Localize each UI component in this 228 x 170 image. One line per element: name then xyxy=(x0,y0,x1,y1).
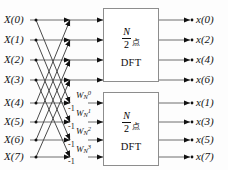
upper-dft-size: N 2 点 xyxy=(104,27,158,50)
straight-branches xyxy=(36,20,70,157)
twiddle-factor-3: WN3 xyxy=(76,144,91,155)
output-label-6: x(5) xyxy=(196,134,228,145)
input-label-3: X(3) xyxy=(4,74,34,85)
output-nodes xyxy=(191,19,194,159)
cross-branches-down xyxy=(36,20,70,157)
twiddle-factor-1: WN1 xyxy=(76,108,91,119)
input-label-4: X(4) xyxy=(4,97,34,108)
lower-unit-label: 点 xyxy=(132,120,140,131)
input-label-5: X(5) xyxy=(4,116,34,127)
twiddle-base-2: W xyxy=(76,126,84,136)
output-label-3: x(6) xyxy=(196,74,228,85)
input-label-6: X(6) xyxy=(4,134,34,145)
minus-one-label-1: -1 xyxy=(68,123,75,131)
input-label-2: X(2) xyxy=(4,54,34,65)
input-label-0: X(0) xyxy=(4,14,34,25)
upper-unit-label: 点 xyxy=(132,36,140,47)
cross-branches-up xyxy=(36,20,70,157)
lower-dft-block: N 2 点 DFT xyxy=(103,92,159,166)
output-wires xyxy=(159,20,190,157)
twiddle-base-0: W xyxy=(76,90,84,100)
fft-butterfly-diagram: X(0) X(1) X(2) X(3) X(4) X(5) X(6) X(7) … xyxy=(0,0,228,170)
minus-one-label-0: -1 xyxy=(68,105,75,113)
upper-block-feeds xyxy=(70,20,103,80)
twiddle-sup-2: 2 xyxy=(88,125,91,132)
minus-one-label-2: -1 xyxy=(68,141,75,149)
lower-dft-label: DFT xyxy=(104,141,158,152)
twiddle-sup-0: 0 xyxy=(88,89,91,96)
twiddle-sup-3: 3 xyxy=(88,143,91,150)
input-label-1: X(1) xyxy=(4,34,34,45)
lower-fraction: N 2 xyxy=(122,111,131,134)
lower-fraction-denominator: 2 xyxy=(122,124,131,135)
output-label-4: x(1) xyxy=(196,97,228,108)
upper-dft-block: N 2 点 DFT xyxy=(103,8,159,82)
twiddle-base-1: W xyxy=(76,108,84,118)
upper-fraction-numerator: N xyxy=(122,27,131,38)
twiddle-factor-2: WN2 xyxy=(76,126,91,137)
lower-dft-size: N 2 点 xyxy=(104,111,158,134)
output-label-7: x(7) xyxy=(196,151,228,162)
lower-fraction-numerator: N xyxy=(122,111,131,122)
output-label-2: x(4) xyxy=(196,54,228,65)
output-label-5: x(3) xyxy=(196,116,228,127)
output-label-0: x(0) xyxy=(196,14,228,25)
upper-fraction-denominator: 2 xyxy=(122,40,131,51)
input-label-7: X(7) xyxy=(4,151,34,162)
twiddle-base-3: W xyxy=(76,144,84,154)
upper-fraction: N 2 xyxy=(122,27,131,50)
minus-one-label-3: -1 xyxy=(68,158,75,166)
output-label-1: x(2) xyxy=(196,34,228,45)
twiddle-factor-0: WN0 xyxy=(76,90,91,101)
twiddle-sup-1: 1 xyxy=(88,107,91,114)
upper-dft-label: DFT xyxy=(104,57,158,68)
